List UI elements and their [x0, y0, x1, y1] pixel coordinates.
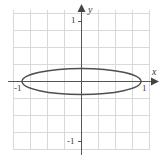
plot-canvas [0, 0, 163, 162]
y-axis-arrowhead [78, 4, 86, 12]
x-tick-label-negative: -1 [14, 84, 22, 93]
ellipse-coordinate-plot: y x 1 -1 1 -1 [0, 0, 163, 162]
x-axis-arrowhead [151, 78, 159, 86]
y-axis-label: y [88, 5, 92, 15]
y-tick-label-positive: 1 [71, 16, 76, 25]
x-tick-label-positive: 1 [142, 84, 147, 93]
x-axis-label: x [152, 67, 156, 77]
y-tick-label-negative: -1 [67, 137, 75, 146]
